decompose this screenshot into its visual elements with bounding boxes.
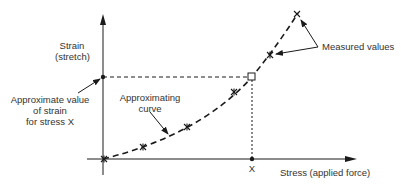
measured-values-label: Measured values — [322, 41, 394, 52]
x-axis-label: Stress (applied force) — [280, 167, 370, 178]
x-axis-value-dot — [250, 157, 254, 161]
x-axis-arrow-icon — [345, 156, 357, 162]
approximating-curve — [103, 13, 298, 159]
y-axis-label-line2: (stretch) — [55, 51, 89, 62]
approx-value-pointer — [78, 79, 100, 93]
measured-pointer-2 — [301, 20, 318, 47]
y-axis-arrow-icon — [100, 14, 106, 25]
y-axis-value-dot — [101, 75, 105, 79]
measured-pointer-1 — [276, 47, 318, 54]
stress-strain-diagram — [0, 0, 401, 186]
y-axis-label: Strain (stretch) — [55, 40, 89, 62]
approx-value-line2: of strain — [10, 105, 90, 116]
approx-value-label: Approximate value of strain for stress X — [10, 94, 90, 127]
measured-points — [101, 11, 300, 163]
approx-curve-pointer — [150, 112, 168, 134]
y-axis-label-line1: Strain — [55, 40, 89, 51]
approx-curve-line1: Approximating — [118, 92, 182, 103]
approx-curve-label: Approximating curve — [118, 92, 182, 114]
x-tick-label: X — [248, 163, 256, 174]
approx-value-line1: Approximate value — [10, 94, 90, 105]
approx-value-line3: for stress X — [10, 116, 90, 127]
approx-curve-line2: curve — [118, 103, 182, 114]
interpolated-point-square — [248, 73, 255, 80]
